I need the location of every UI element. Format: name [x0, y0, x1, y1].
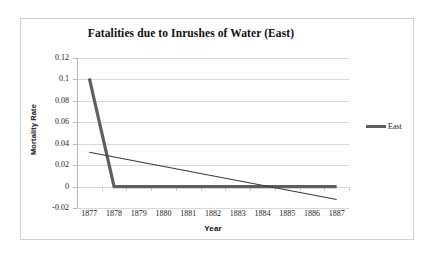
- x-axis-tick-label: 1887: [329, 210, 345, 218]
- y-axis-tick-label: 0.04: [29, 140, 69, 148]
- legend-swatch-east: [366, 125, 386, 128]
- x-axis-tick-label: 1881: [180, 210, 196, 218]
- y-axis-tick-label: 0.08: [29, 97, 69, 105]
- chart-legend: East: [366, 122, 402, 131]
- plot-area: [77, 58, 349, 208]
- x-axis-tick-label: 1880: [156, 210, 172, 218]
- chart-frame: Fatalities due to Inrushes of Water (Eas…: [20, 18, 414, 240]
- x-axis-tick-label: 1882: [205, 210, 221, 218]
- chart-title: Fatalities due to Inrushes of Water (Eas…: [21, 27, 361, 39]
- x-axis-tick-labels: 1877187818791880188118821883188418851886…: [77, 210, 349, 222]
- y-axis-tick-label: 0: [29, 183, 69, 191]
- x-axis-tick-label: 1886: [304, 210, 320, 218]
- x-axis-tick-label: 1877: [81, 210, 97, 218]
- x-axis-tick: [349, 187, 350, 191]
- y-axis-tick-label: 0.06: [29, 118, 69, 126]
- x-axis-tick-label: 1879: [131, 210, 147, 218]
- x-axis-tick-label: 1883: [230, 210, 246, 218]
- series-lines: [77, 58, 349, 208]
- legend-label-east: East: [388, 122, 402, 131]
- y-axis-tick-label: 0.1: [29, 75, 69, 83]
- x-axis-title: Year: [77, 224, 349, 233]
- x-axis-tick-label: 1884: [254, 210, 270, 218]
- trendline-east: [89, 152, 336, 199]
- x-axis-tick-label: 1885: [279, 210, 295, 218]
- y-axis-tick-label: -0.02: [29, 204, 69, 212]
- series-line-east: [89, 78, 336, 186]
- y-axis-tick-label: 0.02: [29, 161, 69, 169]
- x-axis-tick-label: 1878: [106, 210, 122, 218]
- y-axis-tick-label: 0.12: [29, 54, 69, 62]
- y-axis-tick: [73, 208, 77, 209]
